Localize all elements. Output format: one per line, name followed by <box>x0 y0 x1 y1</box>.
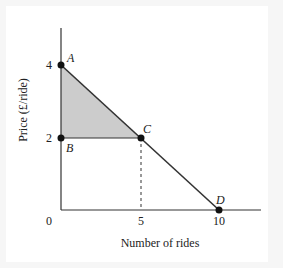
point-b-label: B <box>66 141 74 155</box>
point-a-label: A <box>66 51 75 65</box>
x-axis-title: Number of rides <box>121 236 200 250</box>
point-d-label: D <box>215 193 225 207</box>
point-a <box>58 62 65 69</box>
x-tick-5: 5 <box>138 214 144 228</box>
y-axis-title: Price (£/ride) <box>16 78 30 142</box>
origin-label: 0 <box>46 214 52 228</box>
x-tick-10: 10 <box>213 214 225 228</box>
point-c-label: C <box>143 122 152 136</box>
y-tick-4: 4 <box>46 58 52 72</box>
y-tick-2: 2 <box>46 131 52 145</box>
point-b <box>58 135 65 142</box>
chart-svg: A B C D 4 2 0 5 10 Number of rides Price… <box>0 0 283 268</box>
point-d <box>216 207 223 214</box>
